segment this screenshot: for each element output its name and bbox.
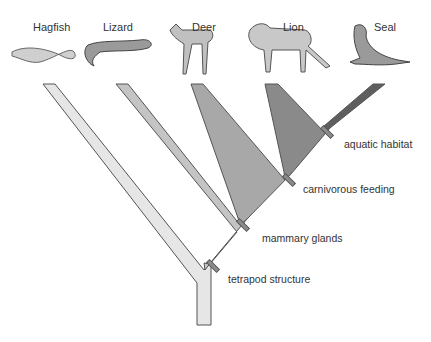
lizard-icon [85,40,151,66]
taxon-label-seal: Seal [374,21,396,33]
cladogram-tree [0,0,431,342]
trait-label-tetrapod-structure: tetrapod structure [228,273,310,285]
trait-label-mammary-glands: mammary glands [262,232,343,244]
branch-lion [265,84,330,180]
taxon-label-lion: Lion [283,21,304,33]
branch-hagfish [43,84,211,325]
trait-label-carnivorous-feeding: carnivorous feeding [303,183,395,195]
taxon-label-lizard: Lizard [103,21,133,33]
trait-label-aquatic-habitat: aquatic habitat [344,138,412,150]
taxon-label-deer: Deer [192,21,216,33]
hagfish-icon [12,48,75,62]
taxon-label-hagfish: Hagfish [33,21,70,33]
branch-seal [324,84,385,133]
